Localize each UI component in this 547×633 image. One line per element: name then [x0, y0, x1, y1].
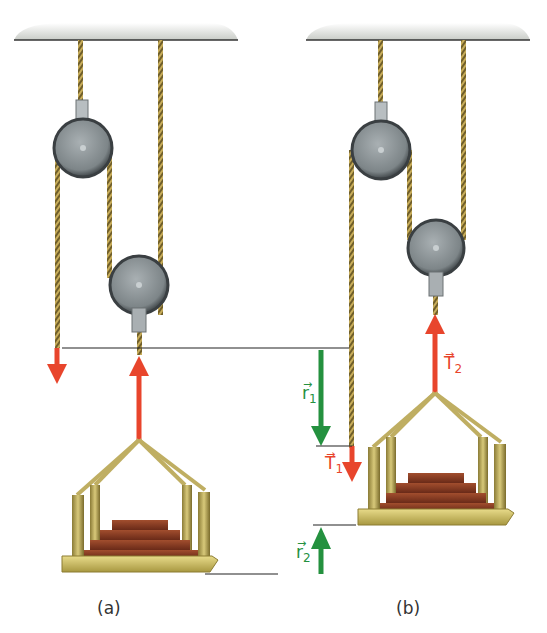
label-T1: →T1	[325, 455, 343, 475]
panel-b	[306, 23, 530, 574]
ceiling-b	[306, 23, 530, 40]
load-basket-a	[62, 440, 218, 572]
caption-b: (b)	[396, 598, 420, 618]
ceiling-a	[14, 23, 238, 40]
label-r1: →r1	[302, 385, 317, 405]
pulley-diagram	[0, 0, 547, 633]
load-basket-b	[358, 393, 514, 525]
panel-a	[14, 23, 350, 574]
label-r2: →r2	[296, 544, 311, 564]
caption-a: (a)	[97, 598, 121, 618]
label-T2: →T2	[444, 355, 462, 375]
